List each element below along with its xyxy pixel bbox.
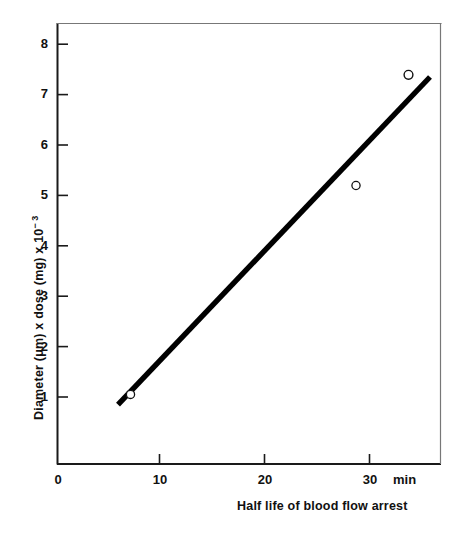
y-axis-title-exponent: − 3 xyxy=(30,216,40,229)
x-tick-label-10: 10 xyxy=(145,473,175,486)
axis-frame xyxy=(57,23,442,465)
x-tick-marks xyxy=(160,454,370,464)
x-axis-title: Half life of blood flow arrest xyxy=(237,499,408,513)
x-tick-label-20: 20 xyxy=(250,473,280,486)
data-point-2 xyxy=(352,181,360,189)
data-point-1 xyxy=(126,390,134,398)
x-axis-unit-label: min xyxy=(393,473,416,486)
plot-canvas xyxy=(0,0,471,536)
x-tick-label-0: 0 xyxy=(43,473,73,486)
fitted-line xyxy=(118,77,430,405)
x-tick-label-30: 30 xyxy=(355,473,385,486)
chart-figure: 8 7 6 5 4 3 2 1 0 10 20 30 min Half life… xyxy=(0,0,471,536)
data-point-3 xyxy=(404,70,413,79)
y-axis-title: Diameter (μm) x dose (mg) x 10− 3 xyxy=(30,216,46,420)
y-tick-marks xyxy=(58,44,68,397)
y-axis-title-text: Diameter (μm) x dose (mg) x 10 xyxy=(32,229,46,420)
y-axis-title-wrapper: Diameter (μm) x dose (mg) x 10− 3 xyxy=(0,0,36,470)
